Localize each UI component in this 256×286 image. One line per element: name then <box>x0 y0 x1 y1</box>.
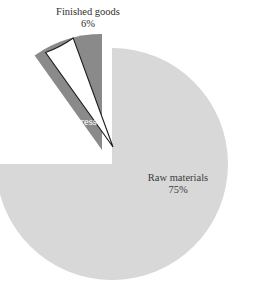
pie-label-finished-goods: Finished goods 6% <box>30 6 146 31</box>
pie-slice-raw-materials[interactable] <box>0 48 228 280</box>
pie-label-raw-materials-name: Raw materials <box>126 172 230 184</box>
pie-chart-canvas <box>0 0 256 286</box>
pie-label-work-in-progress-value: 19% <box>2 128 118 140</box>
pie-label-raw-materials: Raw materials 75% <box>126 172 230 197</box>
pie-chart: Raw materials 75% Work-in-progress 19% F… <box>0 0 256 286</box>
pie-label-work-in-progress: Work-in-progress 19% <box>2 116 118 141</box>
pie-label-raw-materials-value: 75% <box>126 184 230 196</box>
pie-label-finished-goods-value: 6% <box>30 18 146 30</box>
pie-label-work-in-progress-name: Work-in-progress <box>2 116 118 128</box>
pie-label-finished-goods-name: Finished goods <box>30 6 146 18</box>
